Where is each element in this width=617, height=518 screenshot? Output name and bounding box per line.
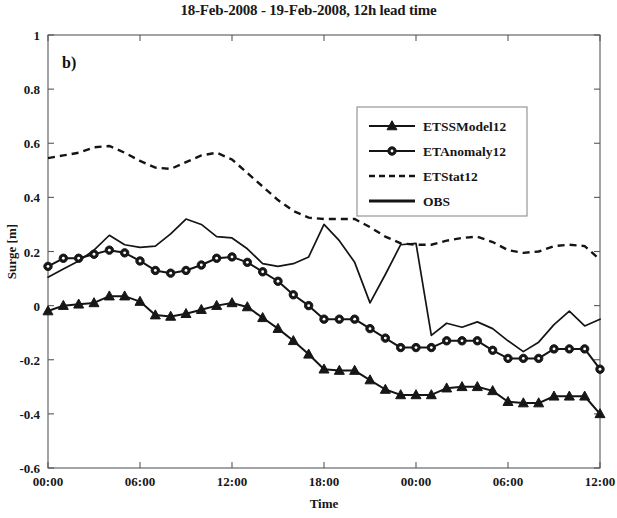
data-point-marker-circle-core (108, 249, 111, 252)
data-point-marker-circle-core (445, 339, 448, 342)
x-tick-label: 00:00 (33, 474, 63, 489)
legend-label-ETStat12: ETStat12 (423, 169, 478, 184)
x-tick-label: 06:00 (493, 474, 523, 489)
figure-container: 18-Feb-2008 - 19-Feb-2008, 12h lead time… (0, 0, 617, 518)
panel-label: b) (62, 54, 76, 72)
plot-labels: -0.6-0.4-0.200.20.40.60.8100:0006:0012:0… (4, 28, 615, 511)
chart-legend[interactable]: ETSSModel12ETAnomaly12ETStat12OBS (357, 107, 527, 216)
data-point-marker-circle-core (307, 304, 310, 307)
data-point-marker-circle-core (369, 327, 372, 330)
data-point-marker-circle-core (583, 347, 586, 350)
data-point-marker-circle-core (292, 293, 295, 296)
data-point-marker-circle-core (491, 349, 494, 352)
data-point-marker-circle-core (338, 318, 341, 321)
data-point-marker-circle-core (261, 270, 264, 273)
series-path-OBS (48, 219, 600, 352)
series-ETSSModel12 (43, 291, 605, 418)
data-point-marker-triangle (380, 384, 390, 393)
data-point-marker-triangle (227, 298, 237, 307)
data-point-marker-triangle (273, 323, 283, 332)
series-ETAnomaly12 (44, 246, 604, 373)
data-point-marker-circle-core (169, 272, 172, 275)
data-point-marker-circle-core (231, 255, 234, 258)
x-tick-label: 12:00 (217, 474, 247, 489)
data-point-marker-circle-core (154, 269, 157, 272)
data-point-marker-circle-core (185, 269, 188, 272)
legend-label-OBS: OBS (423, 194, 450, 209)
data-point-marker-circle-core (93, 253, 96, 256)
data-point-marker-circle-core (277, 280, 280, 283)
series-path-ETSSModel12 (48, 296, 600, 414)
y-tick-label: -0.2 (19, 353, 40, 368)
data-point-marker-circle-core (353, 318, 356, 321)
x-tick-label: 06:00 (125, 474, 155, 489)
data-point-marker-circle-core (215, 257, 218, 260)
data-point-marker-circle-core (384, 337, 387, 340)
data-point-marker-circle-core (399, 346, 402, 349)
y-tick-label: 0.4 (24, 190, 41, 205)
x-axis-title: Time (310, 496, 339, 511)
data-point-marker-circle-core (537, 357, 540, 360)
data-point-marker-triangle (365, 375, 375, 384)
data-point-marker-triangle (258, 313, 268, 322)
legend-label-ETSSModel12: ETSSModel12 (423, 119, 507, 134)
data-point-marker-circle-core (246, 261, 249, 264)
data-point-marker-circle-core (461, 339, 464, 342)
y-axis-title: Surge [m] (4, 224, 19, 279)
x-tick-label: 12:00 (585, 474, 615, 489)
legend-label-ETAnomaly12: ETAnomaly12 (423, 144, 506, 159)
series-path-ETAnomaly12 (48, 250, 600, 369)
x-tick-label: 00:00 (401, 474, 431, 489)
y-tick-label: 0 (34, 299, 41, 314)
series-OBS (48, 219, 600, 352)
data-point-marker-circle-core (323, 318, 326, 321)
y-tick-label: 0.6 (24, 136, 41, 151)
data-point-marker-circle-core (553, 347, 556, 350)
data-point-marker-circle-core (62, 257, 65, 260)
data-point-marker-circle-core (139, 260, 142, 263)
data-point-marker-circle-core (522, 357, 525, 360)
data-point-marker-circle-core (599, 368, 602, 371)
y-tick-label: -0.4 (19, 407, 40, 422)
data-point-marker-circle-core (568, 347, 571, 350)
y-tick-label: 1 (34, 28, 41, 43)
surge-time-series-chart: -0.6-0.4-0.200.20.40.60.8100:0006:0012:0… (0, 0, 617, 518)
y-tick-label: 0.2 (24, 245, 40, 260)
y-tick-label: 0.8 (24, 82, 41, 97)
x-tick-label: 18:00 (309, 474, 339, 489)
data-point-marker-circle-core (47, 265, 50, 268)
data-point-marker-circle-core (476, 339, 479, 342)
data-point-marker-circle-core (507, 357, 510, 360)
data-point-marker-circle-core (415, 346, 418, 349)
data-point-marker-triangle (503, 396, 513, 405)
data-point-marker-circle-core (391, 150, 394, 153)
data-point-marker-circle-core (123, 251, 126, 254)
data-point-marker-circle-core (200, 264, 203, 267)
data-point-marker-circle-core (430, 346, 433, 349)
